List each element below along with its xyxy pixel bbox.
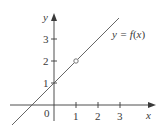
y-tick-label-2: 2 — [43, 55, 49, 67]
y-tick-label-1: 1 — [43, 77, 49, 89]
y-tick-label-3: 3 — [43, 33, 49, 45]
function-graph: y x 0 1 2 3 1 2 3 y = f(x) — [0, 0, 162, 126]
origin-label: 0 — [44, 107, 50, 119]
y-axis-arrow-icon — [51, 13, 57, 21]
open-circle-hole — [74, 59, 78, 63]
curve-label: y = f(x) — [111, 28, 145, 41]
x-tick-label-2: 2 — [95, 110, 101, 122]
x-tick-label-1: 1 — [73, 110, 79, 122]
x-axis-arrow-icon — [148, 102, 156, 108]
function-line — [12, 18, 119, 125]
y-axis-label: y — [42, 11, 48, 23]
x-tick-label-3: 3 — [117, 110, 123, 122]
x-axis-label: x — [145, 109, 151, 121]
